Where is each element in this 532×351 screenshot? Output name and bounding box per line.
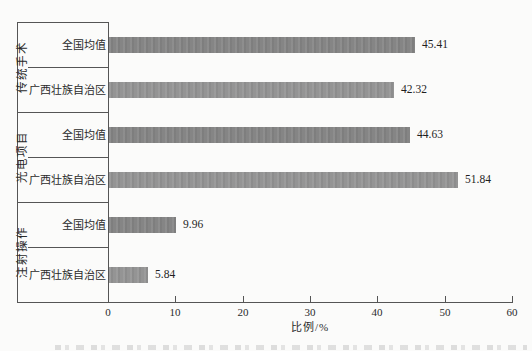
cutoff-caption-fragment xyxy=(55,345,527,350)
x-tick-label: 40 xyxy=(362,306,392,319)
row-label: 全国均值 xyxy=(29,37,106,53)
x-axis-line xyxy=(17,302,513,303)
bar-value-label: 44.63 xyxy=(417,127,443,142)
group-label: 传统手术 xyxy=(14,22,30,112)
group-boundary-line xyxy=(17,22,109,23)
x-tick-label: 10 xyxy=(160,306,190,319)
bar xyxy=(109,267,148,283)
y-axis-line xyxy=(108,22,109,302)
group-boundary-line xyxy=(17,202,109,203)
bar-chart-figure: 传统手术全国均值45.41广西壮族自治区42.32光电项目全国均值44.63广西… xyxy=(0,0,532,351)
x-tick xyxy=(512,296,513,302)
bar-value-label: 51.84 xyxy=(465,172,491,187)
row-label: 广西壮族自治区 xyxy=(29,82,106,98)
x-tick xyxy=(243,296,244,302)
group-boundary-line xyxy=(17,112,109,113)
x-tick-label: 60 xyxy=(497,306,527,319)
x-tick xyxy=(175,296,176,302)
x-tick xyxy=(445,296,446,302)
x-tick-label: 30 xyxy=(295,306,325,319)
row-separator-line xyxy=(28,67,109,68)
bar-value-label: 42.32 xyxy=(401,82,427,97)
row-separator-line xyxy=(28,247,109,248)
bar-value-label: 9.96 xyxy=(183,217,203,232)
bar-value-label: 45.41 xyxy=(422,37,448,52)
x-tick xyxy=(377,296,378,302)
x-tick-label: 50 xyxy=(430,306,460,319)
x-tick-label: 20 xyxy=(228,306,258,319)
bar xyxy=(109,172,458,188)
x-axis-title: 比例/% xyxy=(270,320,350,334)
row-label: 广西壮族自治区 xyxy=(29,172,106,188)
row-label: 全国均值 xyxy=(29,127,106,143)
group-label: 光电项目 xyxy=(14,112,30,202)
bar xyxy=(109,217,176,233)
x-tick xyxy=(310,296,311,302)
row-label: 全国均值 xyxy=(29,217,106,233)
group-label: 注射操作 xyxy=(14,207,30,297)
bar-value-label: 5.84 xyxy=(155,267,175,282)
bar xyxy=(109,127,410,143)
row-separator-line xyxy=(28,157,109,158)
bar xyxy=(109,82,394,98)
row-label: 广西壮族自治区 xyxy=(29,267,106,283)
x-tick xyxy=(108,296,109,302)
bar xyxy=(109,37,415,53)
x-tick-label: 0 xyxy=(93,306,123,319)
plot-area: 传统手术全国均值45.41广西壮族自治区42.32光电项目全国均值44.63广西… xyxy=(0,0,532,351)
